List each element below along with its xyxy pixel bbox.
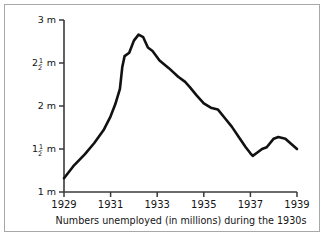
- y-axis-tick-label: 3 m: [38, 14, 56, 25]
- x-axis-tick-label: 1931: [98, 199, 123, 210]
- chart-page: 3 m21–2 m2 m11–2 m1 m 192919311933193519…: [0, 0, 324, 243]
- x-axis-tick-label: 1929: [51, 199, 76, 210]
- y-axis-tick-labels: 3 m21–2 m2 m11–2 m1 m: [32, 14, 56, 197]
- x-axis-tick-label: 1935: [191, 199, 216, 210]
- y-axis-tick-label: 1 m: [38, 186, 56, 197]
- y-axis-tick-label: 11–2 m: [32, 143, 56, 158]
- unemployment-line-chart: 3 m21–2 m2 m11–2 m1 m 192919311933193519…: [0, 0, 324, 243]
- y-axis-tick-label: 21–2 m: [32, 57, 56, 72]
- x-axis-tick-label: 1939: [284, 199, 309, 210]
- y-axis-tick-label: 2 m: [38, 100, 56, 111]
- chart-axes: [64, 20, 297, 192]
- x-axis-tick-label: 1937: [238, 199, 263, 210]
- x-axis-tick-label: 1933: [144, 199, 169, 210]
- unemployment-series-line: [64, 35, 297, 179]
- x-axis-tick-labels: 192919311933193519371939: [51, 199, 309, 210]
- chart-caption: Numbers unemployed (in millions) during …: [56, 215, 307, 226]
